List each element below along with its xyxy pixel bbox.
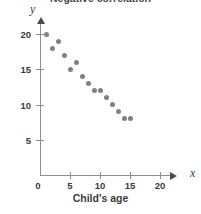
x-axis-tick <box>70 172 71 179</box>
plot-area: 0 5101520 5101520 <box>40 20 176 176</box>
x-axis-tick-label: 15 <box>125 180 136 191</box>
origin-tick-label: 0 <box>35 180 40 191</box>
data-point <box>104 95 109 100</box>
x-axis-tick-label: 20 <box>155 180 166 191</box>
y-axis-line <box>40 24 41 176</box>
data-point <box>98 88 103 93</box>
data-point <box>116 109 121 114</box>
x-axis-tick <box>100 172 101 179</box>
scatter-plot-figure: Negative correlation Hours of sleep 0 51… <box>0 0 201 214</box>
data-point <box>50 46 55 51</box>
y-axis-tick-label: 10 <box>20 99 31 110</box>
y-axis-tick-label: 5 <box>26 134 31 145</box>
y-axis-tick: 20 <box>36 34 44 35</box>
x-axis-title: Child's age <box>0 192 201 204</box>
data-point <box>44 32 49 37</box>
x-axis-variable-label: x <box>190 166 195 181</box>
y-axis-arrow-icon <box>37 17 45 24</box>
x-axis-line <box>40 175 172 176</box>
data-point <box>122 116 127 121</box>
data-point <box>68 67 73 72</box>
y-axis-tick: 15 <box>36 69 44 70</box>
y-axis-tick: 10 <box>36 105 44 106</box>
x-axis-tick-label: 10 <box>95 180 106 191</box>
data-point <box>56 39 61 44</box>
data-point <box>86 81 91 86</box>
x-axis-tick <box>160 172 161 179</box>
data-point <box>80 74 85 79</box>
data-point <box>110 102 115 107</box>
data-point <box>62 53 67 58</box>
y-axis-tick-label: 15 <box>20 64 31 75</box>
y-axis-variable-label: y <box>30 2 35 17</box>
x-axis-arrow-icon <box>170 172 177 180</box>
x-axis-tick <box>130 172 131 179</box>
data-point <box>92 88 97 93</box>
x-axis-tick-label: 5 <box>67 180 72 191</box>
data-point <box>74 60 79 65</box>
y-axis-tick-label: 20 <box>20 29 31 40</box>
data-point <box>128 116 133 121</box>
y-axis-tick: 5 <box>36 140 44 141</box>
